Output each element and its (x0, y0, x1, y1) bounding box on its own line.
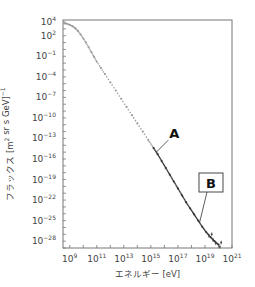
x-tick-label: 1013 (114, 252, 133, 264)
data-point (131, 114, 133, 116)
data-point (103, 71, 105, 73)
data-point (120, 98, 122, 100)
data-point (111, 84, 113, 86)
x-tick-label: 1021 (222, 252, 241, 264)
data-point (220, 242, 222, 244)
data-point (219, 246, 221, 248)
y-tick-label: 10−13 (32, 131, 56, 143)
x-axis-label: エネルギー [eV] (115, 269, 180, 279)
y-tick-label: 10−22 (32, 193, 56, 205)
data-point (124, 103, 126, 105)
data-point (96, 61, 98, 63)
data-point (129, 112, 131, 114)
x-tick-label: 1019 (195, 252, 214, 264)
data-point (119, 95, 121, 97)
data-point (125, 106, 127, 108)
data-point (93, 56, 95, 58)
data-point (113, 87, 115, 89)
data-point (100, 67, 102, 69)
annotation-b-label: B (206, 176, 216, 191)
y-tick-label: 102 (41, 29, 56, 41)
data-point (101, 69, 103, 71)
y-axis-label: フラックス [m2 sr s GeV]−1 (0, 87, 15, 201)
data-series (63, 22, 222, 248)
data-point (140, 128, 142, 130)
annotation-b-leader (200, 192, 207, 223)
data-point (211, 233, 213, 235)
data-point (217, 243, 219, 245)
data-point (85, 41, 87, 43)
x-tick-label: 109 (62, 252, 77, 264)
data-point (91, 53, 93, 55)
data-point (83, 39, 85, 41)
y-tick-label: 10−4 (36, 70, 56, 82)
x-tick-label: 1011 (87, 252, 106, 264)
data-point (115, 89, 117, 91)
data-point (150, 143, 152, 145)
plot-frame (63, 20, 232, 248)
data-point (151, 144, 153, 146)
data-point (208, 235, 210, 237)
data-point (86, 43, 88, 45)
data-point (138, 125, 140, 127)
y-tick-label: 10−10 (32, 111, 56, 123)
y-axis: 10410210−110−410−710−1010−1310−1610−1910… (32, 15, 66, 248)
cosmic-ray-spectrum-chart: フラックス [m2 sr s GeV]−1 エネルギー [eV] 1041021… (0, 0, 255, 287)
data-point (108, 79, 110, 81)
data-point (94, 58, 96, 60)
data-point (106, 76, 108, 78)
data-point (88, 46, 90, 48)
y-tick-label: 104 (41, 15, 56, 27)
data-point (99, 65, 101, 67)
y-tick-label: 10−28 (32, 234, 56, 246)
y-tick-label: 10−16 (32, 152, 56, 164)
data-point (215, 242, 217, 244)
data-point (117, 92, 119, 94)
data-point (212, 239, 214, 241)
data-point (89, 48, 91, 50)
data-point (81, 35, 83, 37)
data-point (144, 134, 146, 136)
y-tick-label: 10−1 (36, 49, 56, 61)
data-point (135, 120, 137, 122)
data-point (136, 122, 138, 124)
data-point (97, 63, 99, 65)
data-point (133, 117, 135, 119)
y-tick-label: 10−25 (32, 214, 56, 226)
data-point (142, 131, 144, 133)
data-point (128, 109, 130, 111)
data-point (90, 51, 92, 53)
x-tick-label: 1017 (168, 252, 187, 264)
y-tick-label: 10−7 (36, 90, 56, 102)
y-axis-title: フラックス [m2 sr s GeV]−1 (0, 87, 15, 201)
data-point (149, 142, 151, 144)
annotation-a-label: A (169, 126, 179, 141)
x-axis-title: エネルギー [eV] (115, 269, 180, 279)
data-point (148, 140, 150, 142)
data-point (104, 73, 106, 75)
data-point (109, 81, 111, 83)
y-tick-label: 10−19 (32, 173, 56, 185)
x-tick-label: 1015 (141, 252, 160, 264)
annotation-a-leader (156, 140, 168, 152)
data-point (122, 101, 124, 103)
data-point (146, 136, 148, 138)
